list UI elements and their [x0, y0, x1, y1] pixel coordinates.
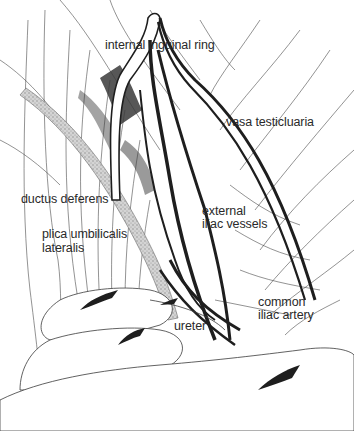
label-ductus-deferens: ductus deferens	[21, 193, 108, 206]
label-common-iliac-artery-line2: iliac artery	[258, 309, 314, 322]
drawing-canvas	[0, 0, 354, 431]
label-plica-umbilicalis-line2: lateralis	[42, 242, 84, 255]
vasa-testicularia	[158, 18, 315, 300]
label-internal-inguinal-ring: internal inguinal ring	[105, 39, 215, 52]
label-plica-umbilicalis-line1: plica umbilicalis	[42, 228, 127, 241]
label-external-iliac-vessels-line2: iliac vessels	[202, 218, 267, 231]
label-ureter: ureter	[174, 320, 206, 333]
anatomical-diagram: internal inguinal ring vasa testicluaria…	[0, 0, 354, 431]
label-vasa-testicularia: vasa testicluaria	[226, 116, 314, 129]
